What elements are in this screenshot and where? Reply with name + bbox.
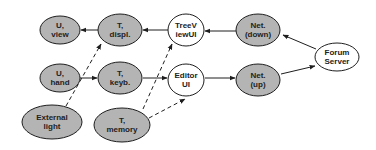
node-label-line2: hand [50, 78, 69, 87]
node-editor-ui: Editor UI [168, 64, 204, 96]
node-label-line2: memory [106, 125, 138, 134]
node-label-line2: (up) [250, 80, 265, 89]
node-label-line1: TreeV [175, 21, 197, 30]
flow-diagram: U, view T, displ. TreeV iewUI Net. (down… [0, 0, 376, 150]
node-net-up: Net. (up) [236, 64, 280, 96]
node-label-line1: External [36, 113, 68, 122]
edge-tmemory-to-editorui [149, 99, 185, 118]
node-label-line2: view [51, 30, 69, 39]
node-label-line1: U, [56, 69, 64, 78]
node-label-line1: Editor [174, 71, 197, 80]
node-label-line2: displ. [110, 30, 131, 39]
node-label-line2: Server [325, 57, 350, 66]
node-u-view: U, view [40, 16, 80, 44]
node-label-line1: T, [117, 21, 123, 30]
node-label-line1: Forum [325, 48, 350, 57]
node-label-line1: Net. [250, 21, 265, 30]
node-t-keyb: T, keyb. [98, 62, 142, 94]
node-label-line1: T, [117, 69, 123, 78]
node-forum-server: Forum Server [315, 43, 359, 71]
node-label-line2: (down) [245, 30, 272, 39]
node-t-displ: T, displ. [98, 14, 142, 46]
node-label-line2: iewUI [176, 30, 197, 39]
node-u-hand: U, hand [40, 64, 80, 92]
node-label-line2: light [44, 122, 61, 131]
node-label-line2: UI [182, 80, 190, 89]
node-treeviewui: TreeV iewUI [168, 14, 204, 46]
node-external-light: External light [22, 105, 82, 139]
node-label-line2: keyb. [110, 78, 130, 87]
edge-tmemory-to-treeviewui [143, 44, 172, 109]
edge-netup-to-forumserver [281, 66, 315, 74]
node-t-memory: T, memory [94, 108, 150, 142]
node-net-down: Net. (down) [236, 14, 280, 46]
edge-forumserver-to-netdown [283, 35, 316, 49]
node-label-line1: T, [119, 116, 125, 125]
node-label-line1: Net. [250, 71, 265, 80]
node-label-line1: U, [56, 21, 64, 30]
